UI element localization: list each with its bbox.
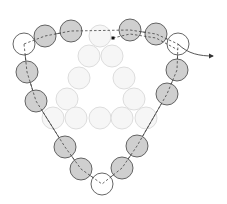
- faded-bead: [68, 67, 90, 89]
- faded-bead-triangle: [42, 25, 157, 129]
- faded-bead: [123, 88, 145, 110]
- diagram-canvas: [0, 0, 227, 204]
- bead-diagram: [0, 0, 227, 204]
- white-bead: [91, 173, 113, 195]
- gray-bead: [145, 23, 167, 45]
- faded-bead: [42, 107, 64, 129]
- gray-bead: [60, 20, 82, 42]
- faded-bead: [135, 107, 157, 129]
- faded-bead: [78, 45, 100, 67]
- gray-bead: [34, 25, 56, 47]
- faded-bead: [89, 25, 111, 47]
- gray-bead: [25, 90, 47, 112]
- faded-bead: [65, 107, 87, 129]
- faded-bead: [101, 45, 123, 67]
- thread-start-marker: [112, 37, 115, 40]
- faded-bead: [113, 67, 135, 89]
- faded-bead: [89, 107, 111, 129]
- faded-bead: [111, 107, 133, 129]
- gray-bead: [156, 83, 178, 105]
